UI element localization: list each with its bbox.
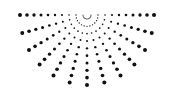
dot [102, 81, 106, 85]
dot [34, 28, 37, 31]
dot [61, 14, 63, 16]
dot [150, 31, 154, 35]
dot [52, 34, 55, 37]
dot [70, 74, 74, 78]
dot [138, 13, 141, 16]
dot [97, 14, 98, 15]
dot [143, 29, 147, 33]
dot [27, 48, 31, 52]
dot [102, 43, 104, 45]
dot [145, 13, 149, 17]
dot [130, 26, 133, 29]
dot [70, 43, 72, 45]
dot [137, 28, 140, 31]
dot [89, 18, 90, 19]
dot [86, 33, 88, 35]
dot [143, 48, 147, 52]
dot [97, 17, 98, 18]
dot [118, 14, 120, 16]
dot [47, 14, 50, 17]
dot [113, 42, 116, 45]
dot [97, 60, 100, 63]
dot [87, 19, 88, 20]
dot-rays [18, 13, 156, 87]
dot [32, 13, 35, 16]
dot [62, 21, 64, 23]
dot [48, 24, 51, 27]
dot [104, 19, 106, 21]
dot [85, 83, 89, 87]
dot [71, 24, 73, 26]
dot [94, 46, 96, 48]
dot [64, 27, 66, 29]
dot [104, 32, 106, 34]
dot [63, 55, 66, 58]
dot [111, 14, 113, 16]
dot [89, 25, 90, 26]
dot [83, 17, 84, 18]
dot [123, 52, 126, 55]
dot [95, 30, 97, 32]
dot [84, 17, 85, 18]
dot [125, 38, 128, 41]
dot [69, 19, 71, 21]
dot [25, 13, 29, 17]
dot [53, 47, 56, 50]
dot [112, 61, 115, 64]
dot [137, 45, 141, 49]
dot [41, 26, 44, 29]
dot [43, 57, 47, 61]
dot [27, 29, 31, 33]
dot [91, 15, 92, 16]
dot [86, 40, 88, 42]
dot [85, 76, 89, 80]
dot [52, 74, 56, 78]
dot [83, 15, 84, 16]
dot [88, 18, 89, 19]
dot [48, 52, 51, 55]
dot [82, 32, 84, 34]
dot [96, 20, 97, 21]
dot [40, 14, 43, 17]
dot [18, 13, 22, 17]
dot [86, 26, 87, 27]
dot [79, 22, 80, 23]
dot [101, 74, 105, 78]
dot [89, 17, 90, 18]
dot [86, 47, 88, 49]
dot [74, 37, 76, 39]
dot [58, 31, 60, 33]
dot [131, 41, 134, 44]
dot [152, 13, 156, 17]
dot [102, 24, 104, 26]
dot [99, 37, 101, 39]
dot [46, 38, 49, 41]
dot [105, 49, 108, 52]
dot [78, 46, 80, 48]
dot [20, 31, 24, 35]
dot [125, 14, 128, 17]
dot [83, 16, 84, 17]
dot [73, 27, 75, 29]
dot [55, 67, 59, 71]
dot [86, 54, 89, 57]
dot [96, 53, 99, 56]
dot [85, 18, 86, 19]
dot [99, 67, 102, 70]
dot [94, 22, 95, 23]
dot [110, 21, 112, 23]
dot [68, 14, 70, 16]
dot [80, 39, 82, 41]
dot [58, 42, 61, 45]
dot [39, 41, 42, 44]
dot [132, 63, 136, 67]
dot [63, 37, 65, 39]
sunburst-dots-graphic [0, 0, 169, 92]
dot [117, 22, 119, 24]
dot [76, 53, 79, 56]
dot [54, 14, 56, 16]
dot [92, 39, 94, 41]
dot [74, 60, 77, 63]
dot [66, 49, 69, 52]
dot [90, 16, 91, 17]
